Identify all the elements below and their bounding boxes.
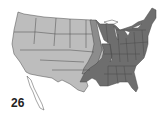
us-map-svg xyxy=(0,0,168,122)
map-number-label: 26 xyxy=(11,96,24,110)
map-region-baja xyxy=(27,76,44,110)
us-map xyxy=(0,0,168,122)
